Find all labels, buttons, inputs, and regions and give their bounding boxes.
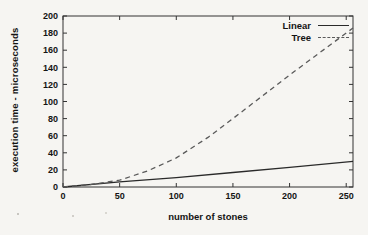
x-tick-label: 50 bbox=[115, 191, 125, 201]
x-tick-label: 250 bbox=[339, 191, 354, 201]
x-tick-label: 100 bbox=[169, 191, 184, 201]
scan-artifact bbox=[17, 213, 19, 215]
y-tick-label: 120 bbox=[43, 80, 58, 90]
y-tick-label: 200 bbox=[43, 11, 58, 21]
legend-item-linear: Linear bbox=[282, 20, 349, 31]
execution-time-chart: 0501001502002500204060801001201401601802… bbox=[0, 0, 368, 235]
y-axis-label: execution time - microseconds bbox=[9, 15, 21, 186]
y-tick-label: 60 bbox=[48, 131, 58, 141]
y-tick-label: 140 bbox=[43, 63, 58, 73]
y-tick-label: 20 bbox=[48, 165, 58, 175]
legend: Linear Tree bbox=[282, 20, 349, 43]
legend-item-tree: Tree bbox=[282, 32, 349, 43]
y-tick-label: 160 bbox=[43, 45, 58, 55]
y-tick-label: 0 bbox=[53, 182, 58, 192]
x-tick-label: 150 bbox=[225, 191, 240, 201]
y-tick-label: 80 bbox=[48, 114, 58, 124]
series-line-linear bbox=[63, 161, 353, 187]
x-tick-label: 0 bbox=[60, 191, 65, 201]
series-line-tree bbox=[63, 28, 353, 187]
legend-label-tree: Tree bbox=[291, 32, 311, 43]
legend-line-sample-dashed bbox=[318, 37, 349, 38]
y-tick-label: 100 bbox=[43, 97, 58, 107]
x-tick-label: 200 bbox=[282, 191, 297, 201]
x-axis-label: number of stones bbox=[63, 211, 353, 222]
y-tick-label: 180 bbox=[43, 28, 58, 38]
y-tick-label: 40 bbox=[48, 148, 58, 158]
legend-line-sample-solid bbox=[318, 25, 349, 26]
legend-label-linear: Linear bbox=[282, 20, 311, 31]
